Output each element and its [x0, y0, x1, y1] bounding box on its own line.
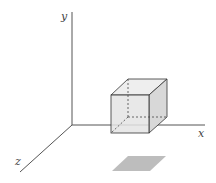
cube-front-face: [111, 95, 149, 133]
z-axis: [20, 125, 72, 172]
z-axis-label: z: [14, 155, 21, 168]
cube: [111, 79, 167, 133]
x-axis-label: x: [198, 127, 205, 140]
y-axis-label: y: [60, 10, 68, 23]
cube-shadow: [112, 156, 166, 171]
diagram-canvas: y x z: [0, 0, 216, 183]
